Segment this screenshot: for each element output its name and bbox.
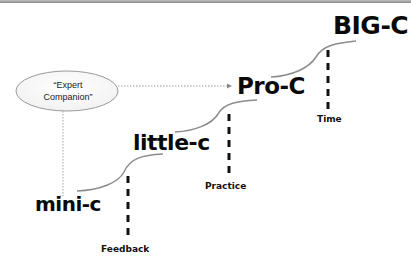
stage-pro-c: Pro-C bbox=[237, 75, 305, 98]
companion-line-2: Companion” bbox=[43, 91, 92, 103]
factor-practice: Practice bbox=[205, 182, 246, 191]
curve-mini-to-little bbox=[77, 154, 163, 191]
factor-feedback: Feedback bbox=[101, 245, 149, 254]
companion-to-mini-c-line bbox=[59, 111, 63, 196]
four-c-model-diagram: “Expert Companion” BIG-C Pro-C little-c … bbox=[0, 0, 411, 267]
expert-companion-label: “Expert Companion” bbox=[16, 71, 120, 111]
curve-little-to-pro bbox=[175, 100, 257, 132]
stage-mini-c: mini-c bbox=[35, 194, 101, 214]
stage-big-c: BIG-C bbox=[333, 13, 408, 38]
companion-line-1: “Expert bbox=[43, 79, 92, 91]
curve-pro-to-big bbox=[271, 41, 356, 77]
stage-little-c: little-c bbox=[133, 132, 210, 154]
factor-time: Time bbox=[317, 115, 342, 124]
